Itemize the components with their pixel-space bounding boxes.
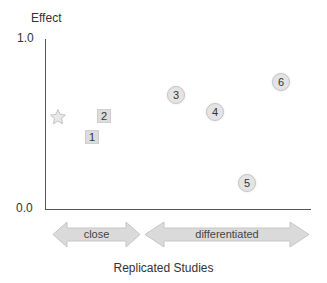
marker-circle-6: 6 <box>272 73 290 91</box>
x-axis-line <box>45 209 311 210</box>
x-axis-title: Replicated Studies <box>0 261 327 275</box>
marker-square-1: 1 <box>85 130 99 144</box>
y-axis-title: Effect <box>31 11 61 25</box>
y-tick-min: 0.0 <box>16 201 33 215</box>
y-axis-line <box>45 39 46 210</box>
arrow-label-differentiated: differentiated <box>144 228 310 240</box>
marker-circle-4: 4 <box>206 103 224 121</box>
arrow-label-close: close <box>52 228 141 240</box>
marker-circle-5: 5 <box>238 174 256 192</box>
star-icon <box>49 108 67 126</box>
y-tick-max: 1.0 <box>17 31 34 45</box>
marker-square-2: 2 <box>97 109 111 123</box>
marker-circle-3: 3 <box>167 86 185 104</box>
